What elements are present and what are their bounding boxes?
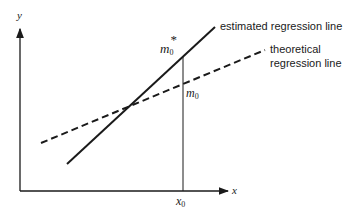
m0-label: m0 xyxy=(186,87,199,103)
y-axis-label: y xyxy=(17,9,22,22)
theoretical-line-label-1: theoretical xyxy=(270,43,321,56)
estimated-line-label: estimated regression line xyxy=(220,20,342,33)
theoretical-regression-line xyxy=(41,50,265,143)
x-axis-label: x xyxy=(232,184,237,197)
theoretical-line-label-2: regression line xyxy=(270,57,342,70)
m0-star-label: m0* xyxy=(160,42,180,59)
x0-label: x0 xyxy=(176,195,185,211)
